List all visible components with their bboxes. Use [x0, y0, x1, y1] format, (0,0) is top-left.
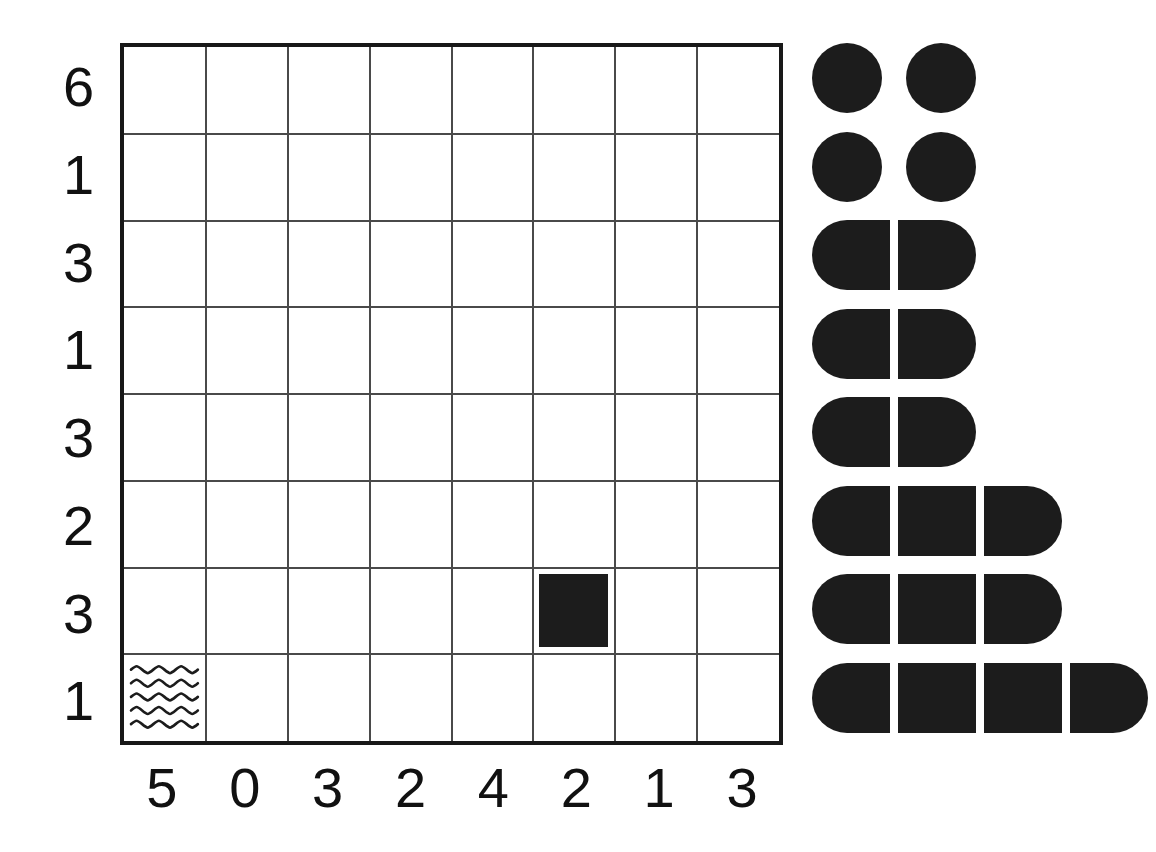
- grid-cell-r1c7[interactable]: [697, 134, 779, 221]
- grid-cell-r1c0[interactable]: [124, 134, 206, 221]
- grid-cell-r7c2[interactable]: [288, 654, 370, 741]
- grid-cell-r1c4[interactable]: [452, 134, 534, 221]
- row-clue-5: 2: [44, 482, 112, 570]
- grid-cell-r1c5[interactable]: [533, 134, 615, 221]
- row-clues: 61313231: [44, 43, 112, 745]
- fleet-row-size-2: [812, 397, 1132, 467]
- grid-cell-r0c0[interactable]: [124, 47, 206, 134]
- grid-cell-r5c0[interactable]: [124, 481, 206, 568]
- grid-cell-r2c1[interactable]: [206, 221, 288, 308]
- fleet-row-size-1: [812, 132, 1132, 202]
- fleet-ship-segment-left-icon: [812, 574, 890, 644]
- grid-cell-r3c1[interactable]: [206, 307, 288, 394]
- grid-cell-r5c3[interactable]: [370, 481, 452, 568]
- fleet-ship-single-icon: [906, 132, 976, 202]
- column-clue-0: 5: [120, 752, 203, 824]
- grid-cell-r7c4[interactable]: [452, 654, 534, 741]
- grid-cell-r3c7[interactable]: [697, 307, 779, 394]
- fleet-ship-segment-right-icon: [898, 397, 976, 467]
- grid-cell-r0c1[interactable]: [206, 47, 288, 134]
- fleet-legend: [812, 43, 1132, 753]
- fleet-ship-segment-right-icon: [1070, 663, 1148, 733]
- column-clues: 50324213: [120, 752, 783, 824]
- grid-cell-r6c6[interactable]: [615, 568, 697, 655]
- fleet-row-size-3: [812, 574, 1132, 644]
- column-clue-1: 0: [203, 752, 286, 824]
- water-icon: [126, 656, 203, 738]
- grid-cell-r4c2[interactable]: [288, 394, 370, 481]
- grid-cell-r0c7[interactable]: [697, 47, 779, 134]
- grid-cell-r4c7[interactable]: [697, 394, 779, 481]
- grid-cell-r7c6[interactable]: [615, 654, 697, 741]
- grid-cell-r6c2[interactable]: [288, 568, 370, 655]
- fleet-ship-segment-mid-icon: [898, 486, 976, 556]
- grid-cell-r7c0-water[interactable]: [124, 654, 206, 741]
- grid-cell-r4c4[interactable]: [452, 394, 534, 481]
- fleet-ship-single-icon: [906, 43, 976, 113]
- grid-cell-r5c4[interactable]: [452, 481, 534, 568]
- grid-cell-r3c6[interactable]: [615, 307, 697, 394]
- grid-cells[interactable]: [124, 47, 779, 741]
- grid-cell-r1c3[interactable]: [370, 134, 452, 221]
- grid-cell-r5c2[interactable]: [288, 481, 370, 568]
- row-clue-1: 1: [44, 131, 112, 219]
- grid-cell-r5c7[interactable]: [697, 481, 779, 568]
- row-clue-0: 6: [44, 43, 112, 131]
- grid-cell-r2c7[interactable]: [697, 221, 779, 308]
- fleet-ship-segment-left-icon: [812, 397, 890, 467]
- column-clue-6: 1: [617, 752, 700, 824]
- column-clue-5: 2: [534, 752, 617, 824]
- grid-cell-r6c4[interactable]: [452, 568, 534, 655]
- grid-cell-r1c2[interactable]: [288, 134, 370, 221]
- grid-cell-r2c6[interactable]: [615, 221, 697, 308]
- fleet-ship-segment-right-icon: [984, 574, 1062, 644]
- fleet-ship-segment-left-icon: [812, 663, 890, 733]
- fleet-row-size-2: [812, 309, 1132, 379]
- grid-cell-r6c7[interactable]: [697, 568, 779, 655]
- grid-cell-r3c4[interactable]: [452, 307, 534, 394]
- grid-cell-r6c3[interactable]: [370, 568, 452, 655]
- grid-cell-r6c5-ship-middle[interactable]: [533, 568, 615, 655]
- grid-cell-r3c2[interactable]: [288, 307, 370, 394]
- row-clue-6: 3: [44, 570, 112, 658]
- grid-cell-r3c3[interactable]: [370, 307, 452, 394]
- grid-cell-r3c5[interactable]: [533, 307, 615, 394]
- grid-cell-r0c4[interactable]: [452, 47, 534, 134]
- grid-cell-r6c0[interactable]: [124, 568, 206, 655]
- grid-cell-r7c7[interactable]: [697, 654, 779, 741]
- grid-cell-r5c6[interactable]: [615, 481, 697, 568]
- grid-cell-r0c5[interactable]: [533, 47, 615, 134]
- row-clue-7: 1: [44, 657, 112, 745]
- grid-cell-r7c1[interactable]: [206, 654, 288, 741]
- puzzle-grid[interactable]: [120, 43, 783, 745]
- grid-cell-r2c4[interactable]: [452, 221, 534, 308]
- grid-cell-r0c6[interactable]: [615, 47, 697, 134]
- grid-cell-r5c1[interactable]: [206, 481, 288, 568]
- grid-cell-r2c3[interactable]: [370, 221, 452, 308]
- fleet-ship-segment-mid-icon: [984, 663, 1062, 733]
- fleet-row-size-4: [812, 663, 1132, 733]
- grid-cell-r2c2[interactable]: [288, 221, 370, 308]
- grid-cell-r4c6[interactable]: [615, 394, 697, 481]
- grid-cell-r1c1[interactable]: [206, 134, 288, 221]
- grid-cell-r7c5[interactable]: [533, 654, 615, 741]
- fleet-ship-single-icon: [812, 43, 882, 113]
- grid-cell-r2c0[interactable]: [124, 221, 206, 308]
- grid-cell-r2c5[interactable]: [533, 221, 615, 308]
- grid-cell-r4c1[interactable]: [206, 394, 288, 481]
- fleet-ship-segment-right-icon: [898, 309, 976, 379]
- grid-cell-r6c1[interactable]: [206, 568, 288, 655]
- grid-cell-r7c3[interactable]: [370, 654, 452, 741]
- fleet-ship-segment-mid-icon: [898, 663, 976, 733]
- grid-cell-r3c0[interactable]: [124, 307, 206, 394]
- grid-cell-r5c5[interactable]: [533, 481, 615, 568]
- row-clue-2: 3: [44, 219, 112, 307]
- column-clue-4: 4: [452, 752, 535, 824]
- grid-cell-r0c3[interactable]: [370, 47, 452, 134]
- grid-cell-r0c2[interactable]: [288, 47, 370, 134]
- column-clue-3: 2: [369, 752, 452, 824]
- grid-cell-r4c3[interactable]: [370, 394, 452, 481]
- grid-cell-r1c6[interactable]: [615, 134, 697, 221]
- grid-cell-r4c0[interactable]: [124, 394, 206, 481]
- grid-cell-r4c5[interactable]: [533, 394, 615, 481]
